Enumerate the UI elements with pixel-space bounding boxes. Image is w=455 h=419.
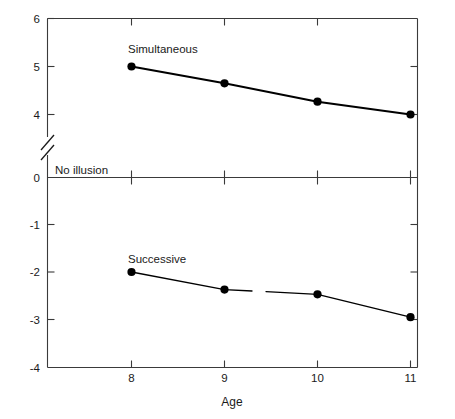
data-point-successive-9 xyxy=(220,286,228,294)
x-ticks-top xyxy=(132,19,318,26)
chart-figure: 6 5 4 0 -1 -2 -3 -4 8 9 10 11 Age No ill… xyxy=(0,0,455,419)
y-tick-label-0: 0 xyxy=(34,172,40,184)
data-point-successive-11 xyxy=(406,313,414,321)
y-tick-label-6: 6 xyxy=(34,13,40,25)
data-point-simultaneous-9 xyxy=(220,79,228,87)
series-label-successive: Successive xyxy=(128,253,186,265)
data-point-simultaneous-8 xyxy=(127,62,135,70)
y-ticks-upper xyxy=(48,19,418,115)
x-tick-label-9: 9 xyxy=(221,372,227,384)
plot-frame xyxy=(48,19,418,368)
data-point-successive-8 xyxy=(127,268,135,276)
x-tick-label-10: 10 xyxy=(311,372,324,384)
successive-line-segment-b xyxy=(266,292,411,318)
y-tick-label-minus-2: -2 xyxy=(30,266,40,278)
data-point-successive-10 xyxy=(313,290,321,298)
series-successive xyxy=(127,268,414,321)
data-point-simultaneous-10 xyxy=(313,98,321,106)
x-ticks-bottom xyxy=(132,361,411,368)
x-tick-label-11: 11 xyxy=(405,372,417,384)
line-chart-svg: 6 5 4 0 -1 -2 -3 -4 8 9 10 11 Age No ill… xyxy=(0,0,455,419)
x-tick-label-8: 8 xyxy=(128,372,134,384)
y-tick-label-minus-4: -4 xyxy=(30,362,41,374)
no-illusion-label: No illusion xyxy=(55,164,108,176)
successive-line-segment-a xyxy=(132,272,253,291)
y-tick-label-minus-1: -1 xyxy=(30,219,40,231)
series-simultaneous xyxy=(127,62,414,118)
data-point-simultaneous-11 xyxy=(406,110,414,118)
series-label-simultaneous: Simultaneous xyxy=(128,43,198,55)
y-tick-label-minus-3: -3 xyxy=(30,314,40,326)
y-tick-label-5: 5 xyxy=(34,61,40,73)
x-axis-title: Age xyxy=(221,395,243,409)
simultaneous-line xyxy=(132,67,411,115)
y-tick-label-4: 4 xyxy=(34,109,41,121)
